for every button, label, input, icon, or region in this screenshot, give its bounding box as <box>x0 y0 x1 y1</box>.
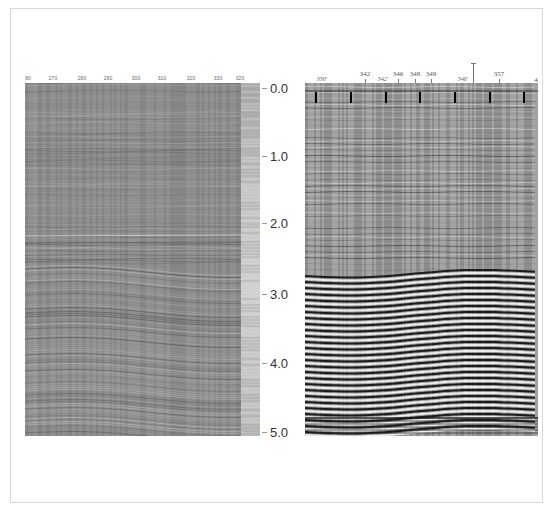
trace-tick-line <box>415 79 416 83</box>
left-trace-label: 300 <box>132 75 140 81</box>
time-axis-label: 0.0 <box>270 81 288 96</box>
time-axis-label: 5.0 <box>270 425 288 440</box>
time-axis-tick <box>262 294 267 295</box>
right-trace-label: 342' <box>378 76 388 82</box>
time-axis-tick <box>262 88 267 89</box>
right-trace-label: 4 <box>534 76 538 84</box>
right-seismic-section <box>305 83 538 436</box>
left-trace-label: 280 <box>78 75 86 81</box>
time-axis-label: 2.0 <box>270 216 288 231</box>
time-axis-tick <box>262 156 267 157</box>
trace-tick-line <box>499 79 500 83</box>
right-seismic-texture <box>305 83 538 436</box>
left-trace-label: 270 <box>49 75 57 81</box>
left-trace-label: 320 <box>236 75 244 81</box>
time-axis-label: 4.0 <box>270 356 288 371</box>
left-trace-label: 310 <box>158 75 166 81</box>
right-trace-label: 349 <box>426 70 437 78</box>
left-seismic-section <box>25 83 241 436</box>
right-trace-label: 346' <box>458 76 468 82</box>
right-trace-label: 346 <box>393 70 404 78</box>
left-trace-label: 290 <box>104 75 112 81</box>
edge-strip-texture <box>241 83 260 436</box>
left-section-edge-strip <box>241 83 260 436</box>
right-trace-label: 348 <box>410 70 421 78</box>
trace-tick-line <box>431 79 432 83</box>
left-trace-label: 80 <box>25 75 31 81</box>
tall-marker-line <box>473 63 474 83</box>
trace-tick-line <box>398 79 399 83</box>
right-trace-label: 342 <box>360 70 371 78</box>
right-trace-label: 357 <box>494 70 505 78</box>
time-axis-label: 1.0 <box>270 149 288 164</box>
left-seismic-texture <box>25 83 241 436</box>
time-axis-tick <box>262 432 267 433</box>
right-trace-label: 330' <box>317 76 327 82</box>
time-axis-tick <box>262 223 267 224</box>
time-axis-label: 3.0 <box>270 287 288 302</box>
tall-marker-cap <box>471 63 476 64</box>
left-trace-label: 330 <box>214 75 222 81</box>
time-axis-tick <box>262 363 267 364</box>
left-trace-label: 320 <box>187 75 195 81</box>
trace-tick-line <box>365 79 366 83</box>
